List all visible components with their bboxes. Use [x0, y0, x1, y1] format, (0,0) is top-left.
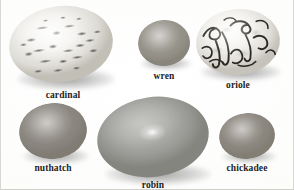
specimen-label-wren: wren — [124, 71, 204, 81]
specimen-label-chickadee: chickadee — [201, 163, 293, 173]
egg-comparison-plate: cardinal wren — [0, 0, 294, 190]
specimen-label-robin: robin — [113, 180, 193, 190]
specimen-label-oriole: oriole — [198, 80, 278, 90]
specimen-label-nuthatch: nuthatch — [7, 163, 99, 173]
specimen-label-cardinal: cardinal — [3, 90, 123, 100]
